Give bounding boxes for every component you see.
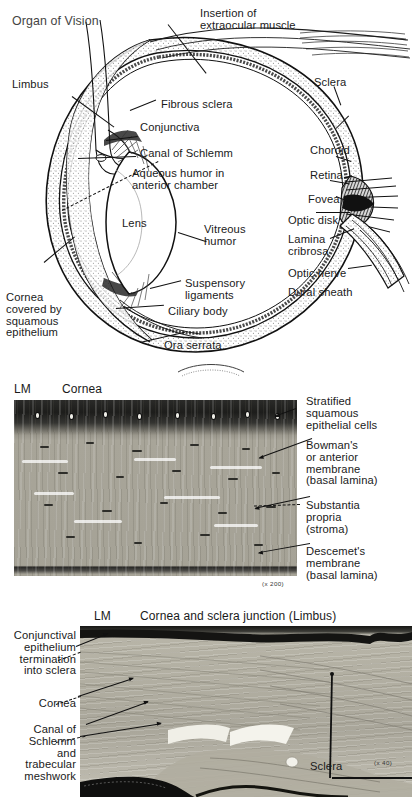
- label-cornea-covered-by-squamous-epithelium: Cornea covered by squamous epithelium: [6, 292, 62, 339]
- limbus-micrograph-panel: LM Cornea and sclera junction (Limbus): [0, 606, 412, 797]
- label-descemets-membrane: Descemet's membrane (basal lamina): [306, 546, 378, 581]
- label-fovea: Fovea: [308, 194, 340, 206]
- label-limbus-cornea: Cornea: [0, 698, 76, 710]
- label-conjunctival-epithelium-termination: Conjunctival epithelium termination into…: [0, 630, 76, 677]
- label-substantia-propria: Substantia propria (stroma): [306, 500, 360, 535]
- organ-of-vision-panel: Organ of Vision Limbus Insertion of extr…: [0, 0, 412, 378]
- cornea-panel-title: Cornea: [62, 384, 102, 396]
- label-fibrous-sclera: Fibrous sclera: [161, 99, 233, 111]
- limbus-panel-title: Cornea and sclera junction (Limbus): [140, 611, 336, 623]
- label-canal-of-schlemm: Canal of Schlemm: [140, 148, 233, 160]
- label-conjunctiva: Conjunctiva: [140, 122, 200, 134]
- optic-nerve-head: [340, 176, 409, 292]
- label-canal-of-schlemm-trabecular-meshwork: Canal of Schlemm and trabecular meshwork: [0, 724, 76, 783]
- label-lens: Lens: [122, 218, 147, 230]
- limbus-micrograph-image: [80, 626, 412, 797]
- label-sclera: Sclera: [314, 77, 346, 89]
- label-optic-disk: Optic disk: [288, 215, 338, 227]
- limbus-magnification: (x 40): [374, 759, 392, 766]
- page-title: Organ of Vision: [12, 16, 99, 28]
- label-ora-serrata: Ora serrata: [164, 340, 222, 352]
- label-retina: Retina: [310, 170, 343, 182]
- label-choroid: Choroid: [310, 145, 350, 157]
- label-insertion-extraocular-muscle: Insertion of extraocular muscle: [200, 8, 296, 32]
- cornea-magnification: (x 200): [262, 580, 284, 587]
- label-bowmans-membrane: Bowman's or anterior membrane (basal lam…: [306, 440, 378, 487]
- label-dural-sheath: Dural sheath: [288, 287, 353, 299]
- label-ciliary-body: Ciliary body: [168, 306, 228, 318]
- label-aqueous-humor: Aqueous humor in anterior chamber: [132, 168, 224, 192]
- label-vitreous-humor: Vitreous humor: [204, 224, 246, 248]
- cornea-micrograph-panel: LM Cornea: [0, 378, 412, 606]
- limbus-structures: [80, 626, 412, 797]
- label-limbus: Limbus: [12, 79, 49, 91]
- cornea-method-label: LM: [14, 384, 31, 396]
- limbus-method-label: LM: [94, 611, 111, 623]
- label-suspensory-ligaments: Suspensory ligaments: [185, 278, 245, 302]
- label-limbus-sclera: Sclera: [310, 761, 342, 773]
- leader-lamina: [316, 212, 350, 213]
- label-stratified-squamous-epithelial-cells: Stratified squamous epithelial cells: [306, 396, 377, 431]
- label-optic-nerve: Optic nerve: [288, 268, 346, 280]
- mini-eye-reference: [178, 365, 244, 377]
- cornea-micrograph-image: [14, 400, 297, 576]
- label-lamina-cribrosa: Lamina cribrosa: [288, 234, 329, 258]
